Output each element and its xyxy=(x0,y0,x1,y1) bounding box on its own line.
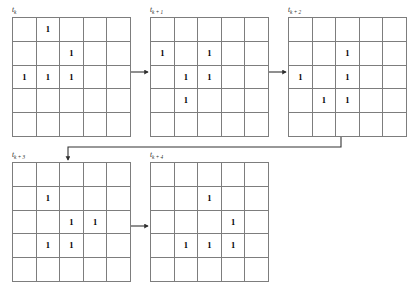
grid-cell-dead[interactable] xyxy=(83,163,107,187)
grid-cell-dead[interactable] xyxy=(107,210,131,234)
grid-cell-dead[interactable] xyxy=(60,89,84,113)
grid-cell-alive[interactable]: 1 xyxy=(60,41,84,65)
grid-cell-alive[interactable]: 1 xyxy=(151,41,175,65)
grid-cell-dead[interactable] xyxy=(245,234,269,258)
grid-cell-dead[interactable] xyxy=(245,210,269,234)
grid-cell-dead[interactable] xyxy=(289,89,313,113)
grid-cell-dead[interactable] xyxy=(107,163,131,187)
grid-cell-alive[interactable]: 1 xyxy=(312,89,336,113)
grid-cell-dead[interactable] xyxy=(151,113,175,137)
grid-cell-dead[interactable] xyxy=(289,18,313,42)
grid-cell-alive[interactable]: 1 xyxy=(174,89,198,113)
grid-cell-dead[interactable] xyxy=(221,113,245,137)
grid-cell-dead[interactable] xyxy=(359,18,383,42)
grid-cell-dead[interactable] xyxy=(13,258,37,282)
grid-cell-alive[interactable]: 1 xyxy=(36,186,60,210)
grid-cell-dead[interactable] xyxy=(107,41,131,65)
grid-cell-dead[interactable] xyxy=(107,65,131,89)
grid-cell-dead[interactable] xyxy=(245,113,269,137)
grid-cell-dead[interactable] xyxy=(383,89,407,113)
grid-cell-dead[interactable] xyxy=(151,234,175,258)
grid-cell-alive[interactable]: 1 xyxy=(198,41,222,65)
grid-cell-dead[interactable] xyxy=(174,210,198,234)
grid-cell-dead[interactable] xyxy=(245,65,269,89)
grid-cell-dead[interactable] xyxy=(151,18,175,42)
grid-cell-dead[interactable] xyxy=(13,234,37,258)
grid-cell-dead[interactable] xyxy=(336,18,360,42)
grid-cell-dead[interactable] xyxy=(83,89,107,113)
grid-cell-dead[interactable] xyxy=(312,18,336,42)
grid-cell-dead[interactable] xyxy=(198,163,222,187)
grid-cell-dead[interactable] xyxy=(289,41,313,65)
grid-cell-dead[interactable] xyxy=(245,186,269,210)
grid-cell-dead[interactable] xyxy=(198,18,222,42)
grid-cell-alive[interactable]: 1 xyxy=(174,65,198,89)
grid-cell-dead[interactable] xyxy=(107,258,131,282)
grid-cell-dead[interactable] xyxy=(151,65,175,89)
grid-cell-dead[interactable] xyxy=(245,18,269,42)
grid-cell-dead[interactable] xyxy=(83,65,107,89)
grid-cell-dead[interactable] xyxy=(359,89,383,113)
grid-cell-alive[interactable]: 1 xyxy=(60,65,84,89)
grid-cell-dead[interactable] xyxy=(174,41,198,65)
grid-cell-dead[interactable] xyxy=(245,258,269,282)
grid-cell-dead[interactable] xyxy=(107,18,131,42)
grid-cell-dead[interactable] xyxy=(383,65,407,89)
grid-cell-dead[interactable] xyxy=(60,113,84,137)
grid-cell-dead[interactable] xyxy=(383,41,407,65)
grid-cell-alive[interactable]: 1 xyxy=(336,65,360,89)
grid-cell-dead[interactable] xyxy=(83,258,107,282)
grid-cell-dead[interactable] xyxy=(83,113,107,137)
grid-cell-dead[interactable] xyxy=(221,18,245,42)
grid-cell-dead[interactable] xyxy=(221,41,245,65)
grid-cell-alive[interactable]: 1 xyxy=(198,186,222,210)
grid-cell-dead[interactable] xyxy=(245,89,269,113)
grid-cell-dead[interactable] xyxy=(60,18,84,42)
grid-cell-dead[interactable] xyxy=(383,18,407,42)
grid-cell-dead[interactable] xyxy=(336,113,360,137)
grid-cell-dead[interactable] xyxy=(174,113,198,137)
grid-cell-dead[interactable] xyxy=(221,258,245,282)
grid-cell-dead[interactable] xyxy=(83,186,107,210)
grid-cell-alive[interactable]: 1 xyxy=(198,65,222,89)
grid-cell-alive[interactable]: 1 xyxy=(336,89,360,113)
grid-cell-dead[interactable] xyxy=(174,18,198,42)
grid-cell-dead[interactable] xyxy=(13,210,37,234)
grid-cell-dead[interactable] xyxy=(198,210,222,234)
grid-cell-dead[interactable] xyxy=(221,89,245,113)
grid-cell-dead[interactable] xyxy=(107,186,131,210)
grid-cell-dead[interactable] xyxy=(83,18,107,42)
grid-cell-alive[interactable]: 1 xyxy=(336,41,360,65)
grid-cell-alive[interactable]: 1 xyxy=(83,210,107,234)
grid-cell-dead[interactable] xyxy=(383,113,407,137)
grid-cell-dead[interactable] xyxy=(174,163,198,187)
grid-cell-dead[interactable] xyxy=(174,258,198,282)
grid-cell-dead[interactable] xyxy=(36,89,60,113)
grid-cell-dead[interactable] xyxy=(151,186,175,210)
grid-cell-dead[interactable] xyxy=(107,234,131,258)
grid-cell-alive[interactable]: 1 xyxy=(36,65,60,89)
grid-cell-alive[interactable]: 1 xyxy=(36,18,60,42)
grid-cell-dead[interactable] xyxy=(60,186,84,210)
grid-cell-dead[interactable] xyxy=(245,41,269,65)
grid-cell-dead[interactable] xyxy=(174,186,198,210)
grid-cell-dead[interactable] xyxy=(221,65,245,89)
grid-cell-alive[interactable]: 1 xyxy=(36,234,60,258)
grid-cell-dead[interactable] xyxy=(221,186,245,210)
grid-cell-dead[interactable] xyxy=(359,41,383,65)
grid-cell-dead[interactable] xyxy=(245,163,269,187)
grid-cell-alive[interactable]: 1 xyxy=(60,210,84,234)
grid-cell-dead[interactable] xyxy=(359,65,383,89)
grid-cell-dead[interactable] xyxy=(13,18,37,42)
grid-cell-dead[interactable] xyxy=(83,234,107,258)
grid-cell-dead[interactable] xyxy=(36,113,60,137)
grid-cell-dead[interactable] xyxy=(151,163,175,187)
grid-cell-dead[interactable] xyxy=(13,163,37,187)
grid-cell-alive[interactable]: 1 xyxy=(221,210,245,234)
grid-cell-dead[interactable] xyxy=(13,186,37,210)
grid-cell-dead[interactable] xyxy=(312,113,336,137)
grid-cell-alive[interactable]: 1 xyxy=(174,234,198,258)
grid-cell-dead[interactable] xyxy=(36,41,60,65)
grid-cell-dead[interactable] xyxy=(107,113,131,137)
grid-cell-dead[interactable] xyxy=(60,258,84,282)
